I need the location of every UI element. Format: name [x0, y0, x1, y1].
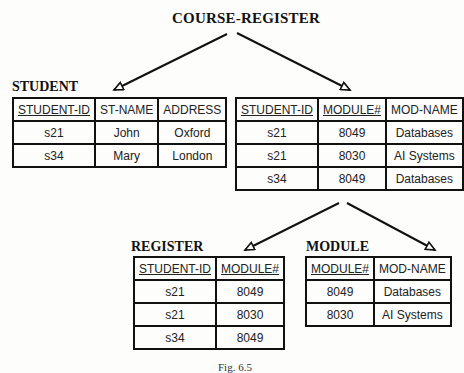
table-cell: 8049 [216, 326, 284, 349]
table-row: s348049Databases [236, 167, 463, 190]
table-cell: 8049 [318, 121, 386, 144]
table-cell: 8030 [216, 303, 284, 326]
header-row: STUDENT-IDMODULE# [134, 257, 284, 280]
table-row: 8049Databases [306, 280, 451, 303]
header-row: STUDENT-IDST-NAMEADDRESS [13, 98, 226, 121]
table-cell: s21 [236, 144, 318, 167]
module-table: MODULE#MOD-NAME8049Databases8030AI Syste… [305, 256, 452, 327]
table-cell: AI Systems [386, 144, 463, 167]
column-header: ADDRESS [158, 98, 226, 121]
table-cell: s21 [134, 280, 216, 303]
table-cell: s21 [236, 121, 318, 144]
table-row: s348049 [134, 326, 284, 349]
column-header: MOD-NAME [386, 98, 463, 121]
table-cell: Databases [374, 280, 451, 303]
column-header: STUDENT-ID [236, 98, 318, 121]
table-cell: 8049 [216, 280, 284, 303]
table-row: s218049Databases [236, 121, 463, 144]
register-table: STUDENT-IDMODULE#s218049s218030s348049 [133, 256, 285, 350]
column-header: MODULE# [216, 257, 284, 280]
table-row: 8030AI Systems [306, 303, 451, 326]
header-row: STUDENT-IDMODULE#MOD-NAME [236, 98, 463, 121]
table-cell: 8030 [318, 144, 386, 167]
module-table-label: MODULE [306, 239, 369, 255]
arrow-to-student [114, 34, 227, 90]
student-table: STUDENT-IDST-NAMEADDRESSs21JohnOxfords34… [12, 97, 227, 168]
table-cell: s21 [134, 303, 216, 326]
table-cell: London [158, 144, 226, 167]
column-header: ST-NAME [95, 98, 158, 121]
column-header: STUDENT-ID [134, 257, 216, 280]
table-cell: s34 [13, 144, 95, 167]
table-row: s218049 [134, 280, 284, 303]
course-register-table: STUDENT-IDMODULE#MOD-NAMEs218049Database… [235, 97, 464, 191]
table-cell: 8030 [306, 303, 374, 326]
figure-caption: Fig. 6.5 [218, 361, 252, 373]
student-table-label: STUDENT [12, 79, 78, 95]
table-row: s21JohnOxford [13, 121, 226, 144]
table-cell: Databases [386, 121, 463, 144]
column-header: MODULE# [306, 257, 374, 280]
table-cell: Databases [386, 167, 463, 190]
table-cell: 8049 [318, 167, 386, 190]
table-row: s218030AI Systems [236, 144, 463, 167]
table-cell: s34 [134, 326, 216, 349]
arrow-to-course-register-table [237, 33, 350, 90]
table-cell: 8049 [306, 280, 374, 303]
column-header: MODULE# [318, 98, 386, 121]
table-cell: Mary [95, 144, 158, 167]
table-row: s218030 [134, 303, 284, 326]
table-row: s34MaryLondon [13, 144, 226, 167]
register-table-label: REGISTER [131, 239, 203, 255]
header-row: MODULE#MOD-NAME [306, 257, 451, 280]
table-cell: s34 [236, 167, 318, 190]
table-cell: s21 [13, 121, 95, 144]
table-cell: AI Systems [374, 303, 451, 326]
column-header: MOD-NAME [374, 257, 451, 280]
table-cell: John [95, 121, 158, 144]
table-cell: Oxford [158, 121, 226, 144]
column-header: STUDENT-ID [13, 98, 95, 121]
